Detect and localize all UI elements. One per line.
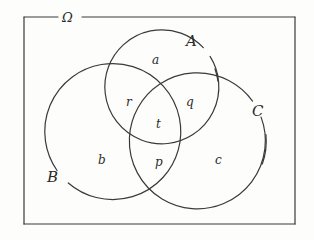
universe-label: Ω <box>62 11 73 24</box>
region-label-r: r <box>126 96 132 108</box>
set-label-B: B <box>47 170 58 185</box>
set-label-C: C <box>252 104 263 119</box>
venn-diagram-figure: Ω A B C a r q t b p c <box>0 0 314 240</box>
region-label-a: a <box>152 54 159 66</box>
region-label-t: t <box>156 118 161 130</box>
region-label-q: q <box>186 96 194 108</box>
region-label-c: c <box>215 154 222 166</box>
set-label-A: A <box>186 34 197 49</box>
circle-A <box>105 30 219 144</box>
region-label-b: b <box>98 154 106 166</box>
region-label-p: p <box>155 156 163 168</box>
